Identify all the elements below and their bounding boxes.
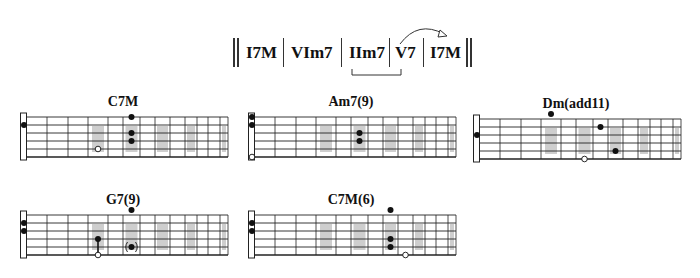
fret-inlay-marker [157, 126, 168, 152]
finger-dot [129, 244, 135, 250]
fret-inlay-marker [675, 128, 679, 154]
fret-inlay-marker [545, 128, 557, 154]
finger-dot [249, 122, 255, 128]
fretboard-diagram [20, 209, 234, 265]
resolution-arrow [400, 29, 444, 44]
finger-dot [249, 114, 255, 120]
fret-inlay-marker [222, 126, 226, 152]
finger-dot [129, 130, 135, 136]
progression-annotations [0, 0, 700, 80]
fret-inlay-marker [320, 224, 332, 250]
fret-inlay-marker [187, 126, 195, 152]
finger-dot [129, 114, 135, 120]
fret-inlay-marker [640, 128, 648, 154]
finger-dot [388, 244, 394, 250]
fretboard-diagram [473, 113, 687, 169]
nut [249, 211, 255, 258]
fret-inlay-marker [450, 126, 454, 152]
fret-inlay-marker [450, 224, 454, 250]
finger-dot [548, 111, 554, 117]
finger-dot [388, 236, 394, 242]
open-string-marker [249, 154, 255, 160]
chord-progression-sheet: I7MVIm7IIm7V7I7M C7MAm7(9)Dm(add11)G7(9)… [0, 0, 700, 278]
chord-name: C7M [63, 94, 183, 110]
finger-dot [249, 220, 255, 226]
fretboard-diagram [20, 111, 234, 167]
finger-dot [21, 220, 27, 226]
nut [474, 115, 480, 162]
chord-name: G7(9) [63, 192, 183, 208]
fretboard-diagram [248, 111, 462, 167]
fret-inlay-marker [385, 126, 396, 152]
fret-inlay-marker [579, 128, 591, 154]
finger-dot [613, 148, 619, 154]
nut [21, 211, 27, 258]
finger-dot [95, 236, 101, 242]
ii-v-bracket [352, 69, 401, 75]
fret-inlay-marker [415, 224, 423, 250]
finger-dot [129, 138, 135, 144]
fretboard-diagram [248, 209, 462, 265]
open-note-marker [95, 146, 101, 152]
finger-dot [249, 228, 255, 234]
fret-inlay-marker [222, 224, 226, 250]
finger-dot [21, 122, 27, 128]
fret-inlay-marker [415, 126, 423, 152]
finger-dot [474, 132, 480, 138]
chord-name: C7M(6) [291, 192, 411, 208]
finger-dot [598, 124, 604, 130]
fret-inlay-marker [320, 126, 332, 152]
fret-inlay-marker [187, 224, 195, 250]
finger-dot [388, 207, 394, 213]
fret-inlay-marker [354, 224, 366, 250]
nut [249, 113, 255, 160]
open-note-marker [95, 252, 101, 258]
fret-inlay-marker [157, 224, 168, 250]
open-note-marker [582, 156, 588, 162]
finger-dot [357, 138, 363, 144]
nut [21, 113, 27, 160]
finger-dot [129, 207, 135, 213]
open-note-marker [403, 252, 409, 258]
finger-dot [21, 228, 27, 234]
arrow-head-icon [438, 30, 447, 37]
chord-name: Am7(9) [291, 94, 411, 110]
finger-dot [357, 130, 363, 136]
chord-name: Dm(add11) [516, 96, 636, 112]
